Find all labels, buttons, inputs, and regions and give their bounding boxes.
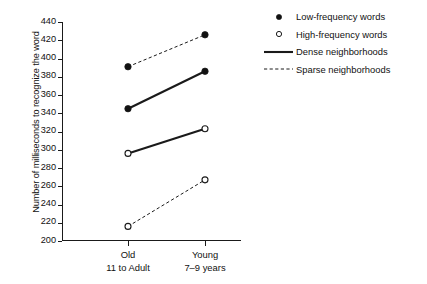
y-tick-label: 260 xyxy=(41,180,56,190)
legend-label: Dense neighborhoods xyxy=(296,46,388,57)
y-tick-label: 360 xyxy=(41,89,56,99)
data-point-open xyxy=(202,126,208,132)
legend-label: Sparse neighborhoods xyxy=(296,64,390,75)
y-tick-label: 200 xyxy=(41,235,56,245)
data-point-filled xyxy=(125,64,131,70)
x-tick-mark xyxy=(128,241,129,246)
series-group xyxy=(125,126,208,157)
x-tick-label-secondary: 7–9 years xyxy=(150,262,260,275)
data-point-filled xyxy=(202,68,208,74)
dashed-line-icon xyxy=(262,62,296,76)
series-group xyxy=(125,68,208,112)
y-tick-label: 340 xyxy=(41,107,56,117)
y-tick-label: 420 xyxy=(41,34,56,44)
series-group xyxy=(125,32,208,70)
open-circle-icon xyxy=(262,27,296,41)
plot-area: 200220240260280300320340360380400420440 … xyxy=(62,22,240,240)
y-tick-label: 300 xyxy=(41,143,56,153)
y-tick-label: 400 xyxy=(41,52,56,62)
x-tick-mark xyxy=(205,241,206,246)
series-line-dashed xyxy=(128,35,205,67)
y-tick-label: 320 xyxy=(41,125,56,135)
y-tick-label: 220 xyxy=(41,216,56,226)
data-point-filled xyxy=(202,32,208,38)
series-plot xyxy=(62,22,240,241)
solid-line-icon xyxy=(262,45,296,59)
data-point-filled xyxy=(125,105,131,111)
legend-label: Low-frequency words xyxy=(296,11,385,22)
line-chart-figure: Number of milliseconds to recognize the … xyxy=(0,0,427,284)
data-point-open xyxy=(202,177,208,183)
y-tick-label: 240 xyxy=(41,198,56,208)
legend-label: High-frequency words xyxy=(296,29,387,40)
x-tick-label-primary: Young xyxy=(192,249,218,260)
y-tick-label: 380 xyxy=(41,70,56,80)
data-point-open xyxy=(125,150,131,156)
series-group xyxy=(125,177,208,230)
chart-legend: Low-frequency wordsHigh-frequency wordsD… xyxy=(262,8,422,78)
data-point-open xyxy=(125,223,131,229)
legend-item: High-frequency words xyxy=(262,26,422,44)
series-line-solid xyxy=(128,71,205,108)
y-tick-label: 280 xyxy=(41,162,56,172)
series-line-dashed xyxy=(128,180,205,227)
legend-item: Dense neighborhoods xyxy=(262,43,422,61)
y-axis-title: Number of milliseconds to recognize the … xyxy=(31,8,41,236)
x-tick-label: Young7–9 years xyxy=(150,249,260,274)
x-tick-label-primary: Old xyxy=(121,249,136,260)
y-tick-mark xyxy=(58,241,62,242)
filled-circle-icon xyxy=(262,10,296,24)
legend-item: Sparse neighborhoods xyxy=(262,61,422,79)
legend-item: Low-frequency words xyxy=(262,8,422,26)
y-tick-label: 440 xyxy=(41,16,56,26)
series-line-solid xyxy=(128,129,205,154)
